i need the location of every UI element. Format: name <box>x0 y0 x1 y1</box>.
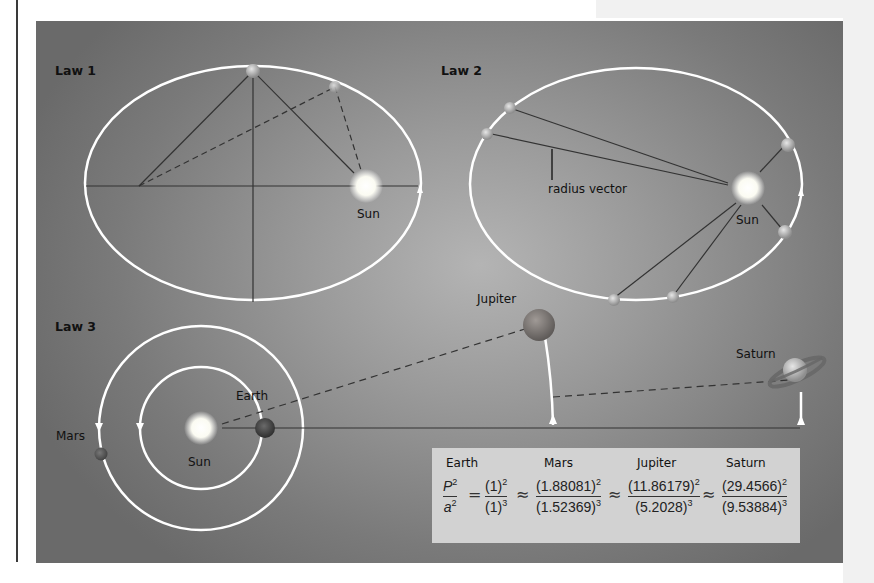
formula-header-earth: Earth <box>446 456 478 470</box>
law2-title: Law 2 <box>441 63 482 78</box>
law1-sun-icon <box>349 169 383 203</box>
law2-planet-icon <box>781 138 795 152</box>
formula-header-mars: Mars <box>544 456 573 470</box>
law3-title: Law 3 <box>55 319 96 334</box>
mars-label: Mars <box>56 429 85 443</box>
radius-vector-label: radius vector <box>548 182 627 196</box>
law2-sun-icon <box>731 171 765 205</box>
mars-orbit-arrow-icon <box>95 423 103 432</box>
law2-planet-icon <box>504 102 516 114</box>
approx-sign: ≈ <box>702 485 715 504</box>
formula-header-saturn: Saturn <box>726 456 766 470</box>
law3-sun-label: Sun <box>188 455 211 469</box>
law1-title: Law 1 <box>55 63 96 78</box>
approx-sign: ≈ <box>516 485 529 504</box>
earth-label: Earth <box>236 389 268 403</box>
formula-term-earth: (1)2 (1)3 <box>485 476 507 517</box>
kepler-third-law-formula: Earth Mars Jupiter Saturn P2 a2 = (1)2 (… <box>432 448 800 543</box>
jupiter-icon <box>523 309 555 341</box>
jupiter-arrow-icon <box>549 414 557 424</box>
law2-diagram <box>470 68 804 306</box>
law2-planet-icon <box>778 225 792 239</box>
earth-icon <box>255 418 275 438</box>
formula-lhs: P2 a2 <box>443 476 457 517</box>
equals-sign: = <box>468 485 481 504</box>
law1-diagram <box>85 64 423 302</box>
law2-planet-icon <box>667 291 679 303</box>
formula-term-jupiter: (11.86179)2 (5.2028)3 <box>628 476 700 517</box>
formula-header-jupiter: Jupiter <box>637 456 676 470</box>
law3-sun-icon <box>184 411 218 445</box>
law2-sun-label: Sun <box>736 213 759 227</box>
jupiter-distance-line <box>545 337 553 425</box>
law2-planet-icon <box>608 294 620 306</box>
formula-term-mars: (1.88081)2 (1.52369)3 <box>536 476 601 517</box>
law2-planet-icon <box>481 128 493 140</box>
jupiter-label: Jupiter <box>477 292 516 306</box>
formula-term-saturn: (29.4566)2 (9.53884)3 <box>722 476 787 517</box>
law1-planet-icon <box>329 81 341 93</box>
earth-orbit-arrow-icon <box>136 423 144 432</box>
law1-planet-icon <box>246 64 260 78</box>
law1-sun-label: Sun <box>357 207 380 221</box>
approx-sign: ≈ <box>608 485 621 504</box>
mars-icon <box>95 448 108 461</box>
saturn-label: Saturn <box>736 347 776 361</box>
saturn-arrow-icon <box>797 415 805 425</box>
